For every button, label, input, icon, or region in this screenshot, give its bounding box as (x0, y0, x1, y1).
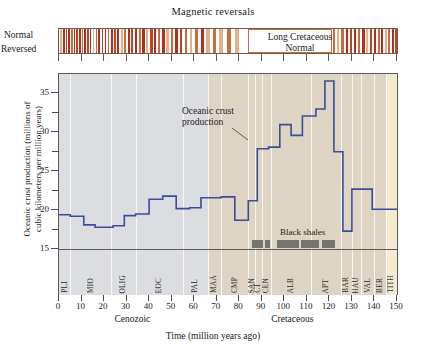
magnetic-normal-band (190, 29, 193, 53)
stage-divider (183, 250, 184, 295)
stage-label: PAL (191, 279, 199, 293)
magnetic-normal-band (124, 29, 126, 53)
magnetic-normal-band (171, 29, 173, 53)
magnetic-normal-band (128, 29, 130, 53)
stage-divider (136, 250, 137, 295)
x-tick-label: 50 (166, 301, 175, 311)
y-tick-major (51, 131, 58, 132)
magnetic-normal-band (180, 29, 183, 53)
stage-label: ALB (287, 278, 295, 293)
x-axis-title: Time (million years ago) (0, 331, 426, 341)
magnetic-normal-band (227, 29, 231, 53)
x-tick-label: 10 (76, 301, 85, 311)
y-tick-label: 35 (33, 87, 49, 97)
stage-label: CEN (262, 278, 270, 293)
magnetic-normal-band (166, 29, 168, 53)
long-cretaceous-normal-label: Long Cretaceous Normal (248, 32, 352, 54)
geologic-stage-strip: PLIMIOOLIGEOCPALMAACMPSANCTCENALBAPTBARH… (58, 250, 398, 295)
stage-divider (208, 250, 209, 295)
x-tick-label: 60 (189, 301, 198, 311)
magnetic-strip-tick (216, 54, 217, 61)
x-tick-label: 20 (99, 301, 108, 311)
magnetic-strip-tick (81, 54, 82, 61)
y-tick-label: 20 (33, 204, 49, 214)
magnetic-normal-band (385, 29, 387, 53)
magnetic-normal-band (98, 29, 100, 53)
magnetic-strip-tick (283, 54, 284, 61)
magnetic-normal-band (154, 29, 156, 53)
magnetic-strip-tick (373, 54, 374, 61)
curve-annotation: Oceanic crust production (182, 106, 238, 128)
magnetic-normal-band (121, 29, 123, 53)
magnetic-normal-band (146, 29, 148, 53)
x-tick-label: 40 (144, 301, 153, 311)
y-tick-minor (52, 151, 58, 152)
stage-label: BAR (342, 277, 350, 293)
stage-label: CMP (231, 277, 239, 293)
black-shale-bar (277, 240, 300, 248)
stage-divider (271, 250, 272, 295)
magnetic-normal-band (93, 29, 95, 53)
stage-divider (361, 250, 362, 295)
stage-label: TITH (387, 275, 395, 293)
stage-label: VAL (364, 278, 372, 293)
magnetic-normal-band (381, 29, 383, 53)
stage-label: HAU (352, 277, 360, 293)
x-tick-label: 70 (211, 301, 220, 311)
x-tick-label: 130 (344, 301, 358, 311)
black-shale-bar (265, 240, 270, 248)
x-tick-label: 30 (121, 301, 130, 311)
magnetic-strip-tick (396, 54, 397, 61)
magnetic-normal-band (201, 29, 204, 53)
magnetic-normal-band (213, 29, 217, 53)
magnetic-strip-tick (328, 54, 329, 61)
magnetic-normal-band (66, 29, 68, 53)
magnetic-normal-band (82, 29, 84, 53)
stage-label: OLIG (119, 275, 127, 293)
stage-divider (111, 250, 112, 295)
magnetic-normal-band (102, 29, 104, 53)
stage-label: PLI (61, 281, 69, 293)
magnetic-normal-band (150, 29, 152, 53)
y-tick-label: 15 (33, 243, 49, 253)
x-tick-label: 110 (299, 301, 312, 311)
stage-label: EOC (155, 278, 163, 293)
x-tick-label: 100 (277, 301, 291, 311)
y-tick-major (51, 92, 58, 93)
y-axis-title: Oceanic crust production (millions of cu… (2, 78, 26, 250)
x-tick-label: 120 (322, 301, 336, 311)
oceanic-crust-production-curve (59, 74, 397, 249)
magnetic-normal-band (162, 29, 164, 53)
magnetic-normal-band (358, 29, 360, 53)
black-shale-bar (301, 240, 319, 248)
y-tick-major (51, 209, 58, 210)
magnetic-normal-band (374, 29, 376, 53)
y-tick-minor (52, 112, 58, 113)
y-tick-label: 25 (33, 165, 49, 175)
magnetic-normal-band (79, 29, 81, 53)
stage-divider (311, 250, 312, 295)
magnetic-normal-band (195, 29, 198, 53)
magnetic-normal-band (114, 29, 116, 53)
plot-area (58, 73, 398, 250)
x-tick-label: 0 (56, 301, 61, 311)
magnetic-normal-band (139, 29, 141, 53)
stage-label: APT (322, 279, 330, 293)
magnetic-normal-band (108, 29, 110, 53)
x-tick-label: 150 (389, 301, 403, 311)
black-shales-label: Black shales (280, 227, 325, 237)
y-tick-major (51, 248, 58, 249)
magnetic-normal-band (206, 29, 209, 53)
magnetic-strip-ticks (58, 54, 398, 61)
magnetic-normal-band (388, 29, 390, 53)
magnetic-normal-band (158, 29, 160, 53)
magnetic-reversed-label: Reversed (1, 44, 36, 54)
magnetic-strip-tick (306, 54, 307, 61)
black-shale-bar (252, 240, 263, 248)
x-tick-label: 80 (234, 301, 243, 311)
magnetic-normal-band (185, 29, 188, 53)
black-shales-bars (58, 240, 398, 248)
black-shale-bar (322, 240, 336, 248)
y-tick-major (51, 170, 58, 171)
era-label: Cretaceous (271, 314, 313, 324)
